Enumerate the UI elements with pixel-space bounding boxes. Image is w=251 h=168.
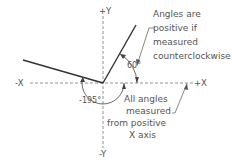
angle-60-label: 60° <box>127 61 141 70</box>
angle-convention-diagram: +Y -Y -X +X 60° -195° Angles are positiv… <box>0 0 251 168</box>
note-ccw-line-2: positive if <box>153 23 198 33</box>
arc-neg-195-arrowhead-start <box>122 83 126 89</box>
arc-60-arrowhead-end <box>120 54 126 59</box>
note-ref-line-3: from positive <box>107 118 167 128</box>
line-60-degrees <box>103 25 136 83</box>
neg-x-label: -X <box>15 78 24 88</box>
note-ref-leader-arrow <box>184 83 188 90</box>
angle-neg-195-label: -195° <box>79 96 101 105</box>
note-ccw-line-4: counterclockwise <box>153 51 231 61</box>
note-ref-line-2: measured <box>126 106 171 116</box>
line-neg-195-degrees <box>23 60 103 83</box>
pos-y-label: +Y <box>99 6 112 16</box>
note-ccw-line-3: measured <box>153 37 198 47</box>
neg-y-label: -Y <box>99 149 107 159</box>
note-ref-line-4: X axis <box>129 130 156 140</box>
pos-x-label: +X <box>194 78 207 88</box>
note-ref-leader <box>172 86 186 113</box>
arc-60-arrowhead-start <box>135 77 139 83</box>
note-ref-line-1: All angles <box>124 94 168 104</box>
note-ccw-line-1: Angles are <box>153 9 201 19</box>
